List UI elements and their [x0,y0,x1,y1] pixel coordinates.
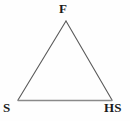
triangle-edge-right [66,21,112,100]
triangle-edge-left [18,21,66,100]
vertex-label-bottom-left: S [3,101,10,114]
triangle-figure: F S HS [0,0,130,121]
vertex-label-bottom-right: HS [104,101,122,114]
vertex-label-apex: F [59,2,67,15]
